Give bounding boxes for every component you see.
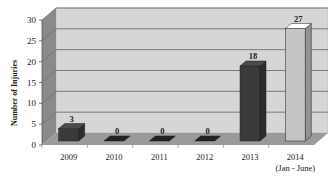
data-label: 3 (70, 114, 74, 124)
x-tick-sublabel: (Jan - June) (276, 163, 316, 173)
data-label: 0 (160, 126, 164, 136)
y-tick-label: 0 (32, 140, 37, 150)
y-tick-label: 10 (27, 98, 37, 108)
x-axis: 200920102011201220132014(Jan - June) (42, 145, 315, 173)
y-axis-label: Number of Injuries (10, 60, 19, 126)
y-tick-label: 25 (27, 36, 37, 46)
bar-2014: 27 (285, 14, 311, 142)
y-tick-label: 5 (32, 119, 37, 129)
y-axis: 051015202530 (27, 15, 42, 150)
x-tick-label: 2011 (151, 152, 168, 162)
x-tick-label: 2010 (106, 152, 123, 162)
data-label: 0 (115, 126, 119, 136)
bar-2013: 18 (240, 51, 266, 141)
y-tick-label: 30 (27, 15, 37, 25)
bar-chart: 30001827 051015202530 200920102011201220… (0, 0, 328, 177)
data-label: 27 (294, 14, 303, 24)
data-label: 0 (206, 126, 210, 136)
y-tick-label: 15 (27, 78, 37, 88)
x-tick-label: 2012 (196, 152, 213, 162)
y-tick-label: 20 (27, 57, 37, 67)
data-label: 18 (249, 51, 258, 61)
x-tick-label: 2014 (287, 152, 305, 162)
x-tick-label: 2013 (242, 152, 259, 162)
x-tick-label: 2009 (60, 152, 77, 162)
